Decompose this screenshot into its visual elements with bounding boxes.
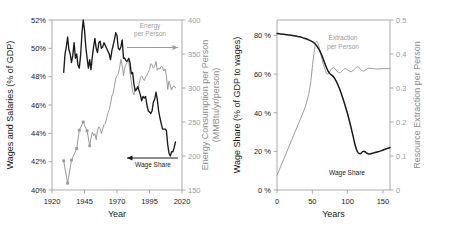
- y-tick-label: 46%: [31, 101, 46, 110]
- x-tick-label: 150: [377, 197, 390, 206]
- annotation-wage-label: Wage Share: [329, 169, 365, 177]
- y-tick-label: 44%: [31, 129, 46, 138]
- y-tick-label: 52%: [31, 16, 46, 25]
- annotation-energy-label: per Person: [134, 30, 166, 38]
- y-tick-label: 42%: [31, 157, 46, 166]
- y-tick-label: 50%: [31, 44, 46, 53]
- y-axis-title: Wages and Salaries (% of GDP): [5, 41, 15, 170]
- x-axis-title: Year: [108, 209, 126, 219]
- two-panel-figure: 40%42%44%46%48%50%52%1502002503003504001…: [0, 0, 454, 229]
- x-tick-label: 1970: [109, 197, 126, 206]
- y2-tick-label: 0.5: [396, 16, 406, 25]
- y2-tick-label: 0.3: [396, 84, 406, 93]
- right-chart-svg: 0 %20 %40 %60 %80 %00.10.20.30.40.505010…: [227, 0, 454, 229]
- annotation-energy-label: Energy: [140, 22, 161, 30]
- y2-tick-label: 0.1: [396, 152, 406, 161]
- series-extraction-per-person: [277, 41, 390, 175]
- chart-panel-right: 0 %20 %40 %60 %80 %00.10.20.30.40.505010…: [227, 0, 454, 229]
- data-marker: [88, 144, 91, 147]
- x-tick-label: 1920: [44, 197, 61, 206]
- data-marker: [86, 129, 89, 132]
- data-marker: [82, 121, 85, 124]
- annotation-wage-arrowhead: [127, 156, 133, 161]
- data-marker: [62, 159, 65, 162]
- x-tick-label: 0: [275, 197, 279, 206]
- y2-axis-title: Energy Consumption per Person: [200, 40, 210, 171]
- y-tick-label: 80 %: [254, 31, 271, 40]
- y2-tick-label: 0.2: [396, 118, 406, 127]
- y2-tick-label: 200: [188, 152, 201, 161]
- x-tick-label: 1945: [76, 197, 93, 206]
- y2-tick-label: 250: [188, 118, 201, 127]
- y2-tick-label: 0.4: [396, 50, 406, 59]
- y-tick-label: 48%: [31, 72, 46, 81]
- annotation-extraction-label: Extraction: [329, 34, 358, 41]
- data-marker: [75, 147, 78, 150]
- left-chart-svg: 40%42%44%46%48%50%52%1502002503003504001…: [0, 0, 227, 229]
- data-marker: [78, 129, 81, 132]
- y-tick-label: 60 %: [254, 70, 271, 79]
- y-tick-label: 0 %: [258, 186, 271, 195]
- data-marker: [66, 182, 69, 185]
- annotation-wage-label: Wage Share: [135, 161, 171, 169]
- x-axis-title: Years: [322, 209, 345, 219]
- x-tick-label: 50: [308, 197, 316, 206]
- annotation-energy-arrowhead: [173, 45, 179, 50]
- y-tick-label: 20 %: [254, 147, 271, 156]
- x-tick-label: 100: [341, 197, 354, 206]
- series-wage-share: [64, 20, 176, 156]
- x-tick-label: 2020: [174, 197, 191, 206]
- chart-panel-left: 40%42%44%46%48%50%52%1502002503003504001…: [0, 0, 227, 229]
- y2-tick-label: 150: [188, 186, 201, 195]
- y-tick-label: 40%: [31, 186, 46, 195]
- y2-tick-label: 0: [396, 186, 400, 195]
- annotation-extraction-label: per Person: [327, 43, 359, 51]
- y2-axis-title: (MMBtu/yr/person): [211, 68, 221, 143]
- x-tick-label: 1995: [141, 197, 158, 206]
- data-marker: [70, 159, 73, 162]
- y-axis-title: Wage Share (% of GDP to wages): [232, 37, 242, 174]
- y2-tick-label: 400: [188, 16, 201, 25]
- y-tick-label: 40 %: [254, 109, 271, 118]
- y2-tick-label: 350: [188, 50, 201, 59]
- y2-axis-title: Resource Extraction per Person: [412, 41, 422, 169]
- y2-tick-label: 300: [188, 84, 201, 93]
